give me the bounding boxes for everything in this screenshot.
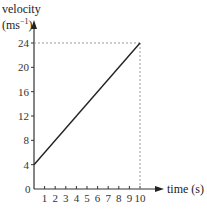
y-tick-label: 12 (18, 110, 29, 122)
x-tick-label: 1 (42, 192, 48, 204)
y-ticks: 4812162024 (18, 37, 34, 171)
y-tick-label: 20 (18, 61, 30, 73)
x-tick-label: 2 (52, 192, 58, 204)
x-tick-label: 8 (116, 192, 122, 204)
y-axis-label-line2: (ms−1) (2, 17, 33, 32)
x-axis-label: time (s) (167, 182, 204, 196)
velocity-time-graph: velocity (ms−1) time (s) 0 12345678910 4… (0, 0, 207, 211)
y-axis-label-line1: velocity (2, 2, 41, 16)
y-tick-label: 8 (24, 134, 30, 146)
x-tick-label: 6 (95, 192, 101, 204)
x-tick-label: 9 (127, 192, 133, 204)
x-axis-arrow-icon (155, 186, 164, 192)
y-tick-label: 24 (18, 37, 30, 49)
velocity-line (34, 43, 140, 165)
x-tick-label: 10 (135, 192, 147, 204)
x-tick-label: 7 (105, 192, 111, 204)
x-tick-label: 5 (84, 192, 90, 204)
x-tick-label: 3 (63, 192, 69, 204)
origin-label: 0 (25, 183, 31, 195)
y-tick-label: 4 (24, 159, 30, 171)
y-tick-label: 16 (18, 86, 30, 98)
x-tick-label: 4 (74, 192, 80, 204)
